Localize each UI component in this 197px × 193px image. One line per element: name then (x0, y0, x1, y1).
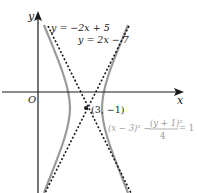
hyperbola-left-branch (44, 25, 70, 193)
equation-fraction-denominator: 4 (160, 131, 165, 141)
center-point (84, 106, 88, 110)
equation-right: = 1 (179, 123, 194, 133)
equation-left: (x − 3)² − (108, 123, 151, 133)
asymptote-label-1: y = −2x + 5 (50, 22, 110, 33)
x-axis-label: x (177, 94, 184, 107)
hyperbola-diagram: y x O y = −2x + 5 y = 2x − 7 (3, −1) (x … (0, 0, 197, 193)
center-label: (3, −1) (91, 104, 125, 115)
y-axis-label: y (27, 10, 35, 23)
hyperbola-equation: (x − 3)² − (y + 1)² 4 = 1 (108, 118, 194, 141)
asymptote-label-2: y = 2x − 7 (77, 34, 130, 45)
origin-label: O (28, 94, 36, 105)
